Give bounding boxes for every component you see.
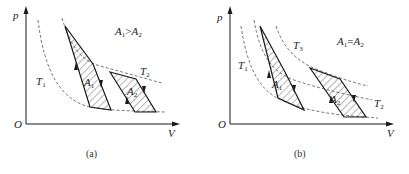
region-label-a1: A1 [84, 77, 94, 90]
pv-diagram-b [204, 0, 409, 174]
region-label-a2: A2 [127, 86, 137, 99]
p-axis-label: p [13, 10, 19, 21]
panel-caption-b: (b) [294, 149, 306, 159]
isotherm-label-t1: T1 [238, 60, 248, 73]
area-relation-label: A1=A2 [337, 36, 364, 49]
cycle-region-a2 [310, 68, 366, 117]
p-axis-arrow-icon [24, 6, 29, 14]
p-axis-arrow-icon [228, 6, 233, 14]
direction-arrow-icon [267, 70, 271, 78]
isotherm-label-t2: T2 [140, 66, 150, 79]
region-label-a1: A1 [272, 79, 282, 92]
v-axis-arrow-icon [172, 122, 180, 127]
area-relation-label: A1>A2 [115, 26, 142, 39]
origin-label: O [218, 119, 226, 130]
pv-diagram-a [0, 0, 205, 174]
isotherm-label-t3: T3 [293, 40, 303, 53]
isotherm-label-t1: T1 [36, 76, 46, 89]
panel-caption-a: (a) [86, 149, 97, 159]
v-axis-label: V [387, 128, 394, 139]
cycle-region-a1 [65, 26, 111, 110]
p-axis-label: p [217, 12, 223, 23]
origin-label: O [14, 119, 22, 130]
diagram-panel-b: p V O A1=A2 T1 T3 T2 A1 A2 (b) [204, 0, 409, 174]
isotherm-label-t2: T2 [374, 98, 384, 111]
diagram-panel-a: p V O A1>A2 T1 T2 A1 A2 (a) [0, 0, 205, 174]
v-axis-label: V [168, 128, 175, 139]
v-axis-arrow-icon [386, 122, 394, 127]
region-label-a2: A2 [330, 94, 340, 107]
